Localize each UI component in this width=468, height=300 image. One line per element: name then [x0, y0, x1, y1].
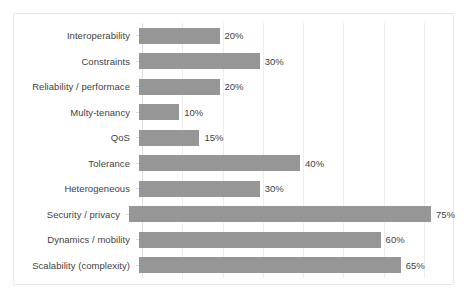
bar-row: Security / privacy75%: [14, 202, 455, 228]
bar-track: 20%: [139, 23, 455, 49]
bar-row: Dynamics / mobility60%: [14, 227, 455, 253]
bar[interactable]: [139, 181, 260, 197]
category-label: Constraints: [14, 57, 136, 67]
bar-row: QoS15%: [14, 125, 455, 151]
bar-row: Multy-tenancy10%: [14, 100, 455, 126]
bar-track: 60%: [139, 227, 455, 253]
bar-track: 15%: [139, 125, 455, 151]
category-label: Tolerance: [14, 159, 136, 169]
category-label: Multy-tenancy: [14, 108, 136, 118]
bar-chart: Interoperability20%Constraints30%Reliabi…: [0, 0, 468, 300]
category-label: Scalability (complexity): [14, 261, 136, 271]
bar[interactable]: [139, 257, 401, 273]
chart-frame: Interoperability20%Constraints30%Reliabi…: [13, 13, 454, 285]
bar-track: 10%: [139, 100, 455, 126]
bar-track: 30%: [139, 49, 455, 75]
bar-rows: Interoperability20%Constraints30%Reliabi…: [14, 23, 455, 278]
bar-row: Scalability (complexity)65%: [14, 253, 455, 279]
bar-track: 65%: [139, 253, 455, 279]
bar-value-label: 10%: [184, 108, 203, 118]
bar-value-label: 30%: [265, 184, 284, 194]
bar-row: Reliability / performace20%: [14, 74, 455, 100]
bar-track: 40%: [139, 151, 455, 177]
bar[interactable]: [139, 28, 220, 44]
bar-track: 20%: [139, 74, 455, 100]
bar[interactable]: [139, 232, 381, 248]
plot-area: Interoperability20%Constraints30%Reliabi…: [14, 14, 455, 286]
category-label: Dynamics / mobility: [14, 235, 136, 245]
bar-row: Constraints30%: [14, 49, 455, 75]
category-label: Reliability / performace: [14, 82, 136, 92]
category-label: Security / privacy: [14, 210, 126, 220]
bar-value-label: 75%: [436, 210, 455, 220]
bar-value-label: 15%: [204, 133, 223, 143]
bar[interactable]: [129, 206, 431, 222]
bar-track: 75%: [129, 202, 455, 228]
bar[interactable]: [139, 130, 199, 146]
bar[interactable]: [139, 155, 300, 171]
bar-track: 30%: [139, 176, 455, 202]
bar-value-label: 65%: [406, 261, 425, 271]
category-label: QoS: [14, 133, 136, 143]
bar-row: Heterogeneous30%: [14, 176, 455, 202]
bar-row: Tolerance40%: [14, 151, 455, 177]
bar-row: Interoperability20%: [14, 23, 455, 49]
bar[interactable]: [139, 53, 260, 69]
bar[interactable]: [139, 79, 220, 95]
category-label: Interoperability: [14, 31, 136, 41]
bar-value-label: 20%: [225, 82, 244, 92]
bar-value-label: 60%: [386, 235, 405, 245]
category-label: Heterogeneous: [14, 184, 136, 194]
bar-value-label: 30%: [265, 57, 284, 67]
bar-value-label: 20%: [225, 31, 244, 41]
bar[interactable]: [139, 104, 179, 120]
bar-value-label: 40%: [305, 159, 324, 169]
